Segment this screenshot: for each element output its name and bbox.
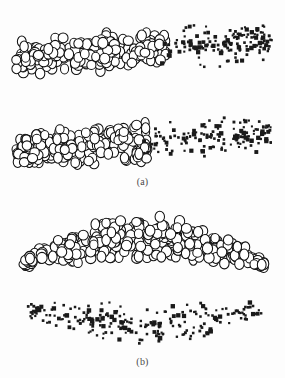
cluster-a-top-dots <box>160 24 273 68</box>
cluster-b-rings <box>19 211 269 272</box>
cluster-a-bottom-rings <box>12 118 152 170</box>
scatter-plot-surface <box>0 0 285 378</box>
cluster-a-top-rings <box>12 28 170 79</box>
cluster-b-dots <box>27 300 263 344</box>
panel-b-caption: (b) <box>0 356 285 368</box>
panel-a-caption: (a) <box>0 176 285 188</box>
cluster-a-bottom-dots <box>142 116 272 157</box>
figure-root: (a) (b) <box>0 0 285 378</box>
